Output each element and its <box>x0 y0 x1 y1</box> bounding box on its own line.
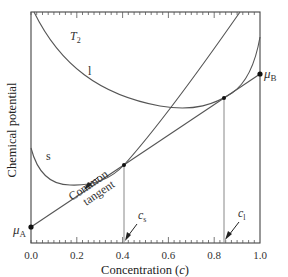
mu-b-label: μB <box>263 66 277 83</box>
mu-a-label: μA <box>12 222 27 239</box>
cs-label: cs <box>138 208 146 224</box>
cl-arrow-icon <box>225 222 239 240</box>
chemical-potential-chart: 0.0 0.2 0.4 0.6 0.8 1.0 Concentration (c… <box>0 0 288 277</box>
solid-curve-label: s <box>46 149 51 163</box>
mu-a-marker <box>28 224 33 229</box>
plot-frame <box>31 12 260 243</box>
solid-curve <box>31 12 240 185</box>
x-axis-label: Concentration (c) <box>101 263 189 277</box>
tick-0.8: 0.8 <box>207 249 221 261</box>
tick-0.4: 0.4 <box>116 249 130 261</box>
tick-0: 0.0 <box>24 249 38 261</box>
cl-label: cl <box>238 206 246 222</box>
tangent-point-s <box>122 163 126 167</box>
x-tick-labels: 0.0 0.2 0.4 0.6 0.8 1.0 <box>24 249 267 261</box>
y-axis-label: Chemical potential <box>5 82 19 177</box>
tick-1.0: 1.0 <box>253 249 267 261</box>
liquid-curve <box>34 12 260 108</box>
tick-0.2: 0.2 <box>70 249 84 261</box>
tick-0.6: 0.6 <box>162 249 176 261</box>
liquid-curve-label: l <box>88 64 92 78</box>
temperature-label: T2 <box>70 29 81 45</box>
mu-b-marker <box>257 71 262 76</box>
cs-arrow-icon <box>125 224 137 241</box>
tangent-point-l <box>222 96 226 100</box>
